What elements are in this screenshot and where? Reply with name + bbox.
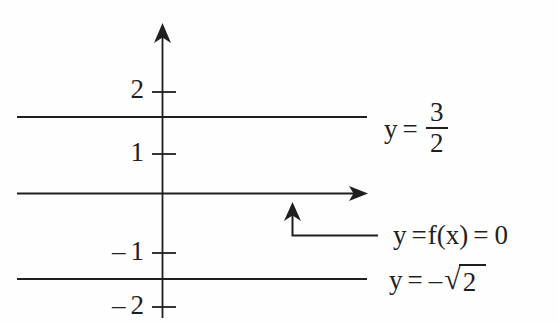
fraction-denominator: 2 (427, 129, 447, 157)
label-f-of-x-equals-first: = (412, 222, 427, 249)
tick-label-2: 2 (108, 76, 144, 103)
tick-label-minus-1: –1 (92, 238, 144, 265)
fraction-three-halves: 3 2 (426, 99, 448, 157)
label-three-halves-equals: = (403, 116, 418, 143)
tick-label-minus-1-digit: 1 (131, 236, 145, 266)
label-f-of-x-value: 0 (494, 222, 508, 249)
label-y-equals-f-of-x: y = f(x) = 0 (393, 222, 508, 249)
tick-label-minus-2-digit: 2 (131, 290, 145, 320)
label-sqrt-variable: y (389, 267, 403, 294)
math-figure: 2 1 –1 –2 y = 3 2 y = f(x) = 0 y = – √ 2 (0, 0, 558, 325)
fraction-numerator: 3 (427, 99, 447, 127)
label-f-of-x-variable: y (393, 222, 407, 249)
label-y-equals-three-halves: y = 3 2 (384, 100, 448, 158)
label-three-halves-variable: y (384, 116, 398, 143)
radical-sign-icon: √ (444, 265, 460, 294)
minus-sign-1: – (112, 236, 126, 266)
tick-label-1: 1 (108, 139, 144, 166)
callout-arrow-line (293, 210, 379, 236)
label-y-equals-neg-sqrt-two: y = – √ 2 (389, 264, 486, 296)
minus-sign-2: – (112, 290, 126, 320)
label-sqrt-equals: = (408, 267, 423, 294)
tick-label-minus-2: –2 (92, 292, 144, 319)
radicand-value: 2 (459, 264, 487, 296)
radical-expression: √ 2 (444, 264, 486, 296)
label-sqrt-minus-sign: – (429, 267, 443, 294)
label-f-of-x-function: f(x) (428, 222, 468, 249)
label-f-of-x-equals-second: = (473, 222, 488, 249)
